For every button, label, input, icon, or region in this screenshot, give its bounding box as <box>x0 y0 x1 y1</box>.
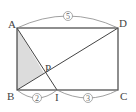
shaded-triangle-abp <box>17 28 44 90</box>
label-ad-length: 5 <box>66 12 70 21</box>
label-ic-length: 3 <box>86 94 90 103</box>
vertex-label-b: B <box>7 90 14 102</box>
vertex-label-i: I <box>55 91 59 103</box>
geometry-diagram: 5 2 3 A D B C I P <box>0 0 136 112</box>
label-bi-length: 2 <box>35 94 39 103</box>
vertex-label-p: P <box>45 62 51 74</box>
vertex-label-a: A <box>8 18 16 30</box>
vertex-label-d: D <box>119 17 127 29</box>
vertex-label-c: C <box>120 90 127 102</box>
